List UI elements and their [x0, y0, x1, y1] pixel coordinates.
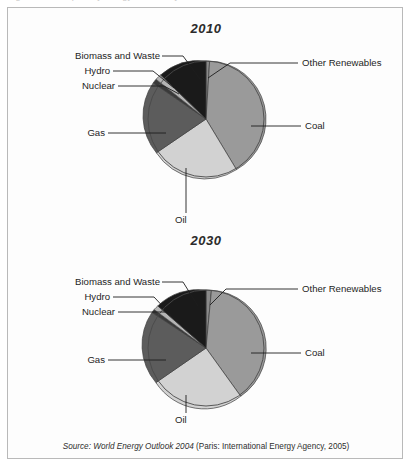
top-edge-bleed-text: Figure 1. World primary energy demand by… [0, 0, 414, 7]
chart-panel-2030: 2030 Biomass and Wast [8, 223, 404, 423]
pie-chart-2010 [8, 8, 404, 228]
label-nuclear-2030: Nuclear [22, 306, 115, 317]
label-other-renewables-2010: Other Renewables [302, 57, 381, 68]
label-hydro-2030: Hydro [22, 291, 110, 302]
label-biomass-and-waste-2030: Biomass and Waste [22, 276, 160, 287]
label-coal-2010: Coal [305, 120, 325, 131]
figure-frame: 2010 Biomass and Wast [7, 7, 403, 459]
label-other-renewables-2030: Other Renewables [302, 283, 381, 294]
source-prefix: Source: [63, 442, 94, 451]
source-caption: Source: World Energy Outlook 2004 (Paris… [8, 442, 404, 451]
pie-chart-2030 [8, 223, 404, 423]
label-hydro-2010: Hydro [22, 65, 110, 76]
cut-off-caption: Figure 1. World primary energy demand by… [8, 0, 196, 1]
label-nuclear-2010: Nuclear [22, 80, 115, 91]
chart-panel-2010: 2010 Biomass and Wast [8, 8, 404, 228]
label-biomass-and-waste-2010: Biomass and Waste [22, 50, 160, 61]
label-gas-2030: Gas [22, 354, 105, 365]
source-title: World Energy Outlook 2004 [93, 442, 194, 451]
source-suffix: (Paris: International Energy Agency, 200… [194, 442, 350, 451]
pie-slices-2030 [142, 289, 266, 408]
label-gas-2010: Gas [22, 127, 105, 138]
label-oil-2030: Oil [175, 414, 187, 425]
label-coal-2030: Coal [305, 347, 325, 358]
